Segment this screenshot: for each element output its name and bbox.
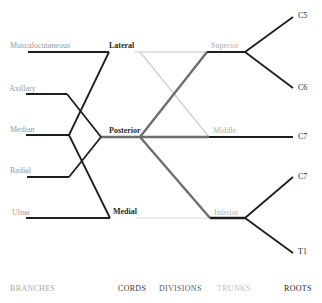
brachial-plexus-diagram: Musculocutaneous Axillary Median Radial … bbox=[0, 0, 322, 303]
branch-musculocutaneous: Musculocutaneous bbox=[10, 42, 70, 50]
cord-medial: Medial bbox=[113, 208, 137, 216]
root-c6: C6 bbox=[298, 84, 307, 92]
root-c6-line bbox=[245, 52, 293, 88]
median-to-medial-line bbox=[69, 135, 110, 218]
root-c5: C5 bbox=[298, 12, 307, 20]
column-cords: CORDS bbox=[118, 285, 146, 293]
branch-radial: Radial bbox=[10, 167, 31, 175]
trunk-superior: Superior bbox=[211, 42, 239, 50]
root-c5-line bbox=[245, 17, 293, 52]
root-c7-lower: C7 bbox=[298, 173, 307, 181]
column-branches: BRANCHES bbox=[10, 285, 55, 293]
posterior-to-inferior-division bbox=[140, 137, 210, 218]
root-c7-lower-line bbox=[245, 177, 293, 218]
trunk-middle: Middle bbox=[213, 127, 236, 135]
branch-axillary: Axillary bbox=[9, 85, 36, 93]
column-trunks: TRUNKS bbox=[217, 285, 251, 293]
column-divisions: DIVISIONS bbox=[159, 285, 202, 293]
branch-ulnar: Ulnar bbox=[12, 209, 30, 217]
root-t1-line bbox=[245, 218, 293, 253]
root-c7-upper: C7 bbox=[298, 133, 307, 141]
root-t1: T1 bbox=[298, 248, 307, 256]
cord-posterior: Posterior bbox=[109, 127, 141, 135]
cord-lateral: Lateral bbox=[109, 42, 134, 50]
branch-median: Median bbox=[10, 126, 34, 134]
column-roots: ROOTS bbox=[284, 285, 312, 293]
trunk-inferior: Inferior bbox=[214, 209, 238, 217]
